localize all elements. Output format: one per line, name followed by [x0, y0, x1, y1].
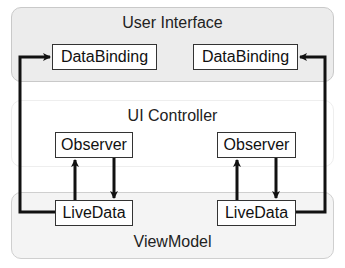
livedata-node-left: LiveData [55, 200, 133, 226]
databinding-node-right: DataBinding [193, 44, 298, 70]
ui-controller-title: UI Controller [12, 107, 333, 125]
user-interface-title: User Interface [12, 14, 333, 32]
viewmodel-title: ViewModel [12, 233, 333, 251]
databinding-node-left: DataBinding [52, 44, 157, 70]
observer-node-left: Observer [55, 132, 133, 158]
observer-node-right: Observer [217, 132, 296, 158]
livedata-node-right: LiveData [217, 200, 296, 226]
